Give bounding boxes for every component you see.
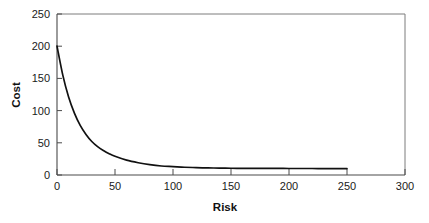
y-tick-label: 150 (32, 72, 50, 84)
x-axis-title: Risk (213, 201, 238, 213)
y-tick-label: 200 (32, 40, 50, 52)
plot-area-background (57, 14, 405, 175)
x-tick-label: 250 (338, 180, 356, 192)
y-tick-label: 250 (32, 8, 50, 20)
x-tick-label: 150 (222, 180, 240, 192)
y-axis-tick-labels: 0 50 100 150 200 250 (32, 8, 50, 181)
x-axis-tick-labels: 0 50 100 150 200 250 300 (54, 180, 414, 192)
chart-container: 0 50 100 150 200 250 0 50 100 150 200 25… (0, 0, 429, 223)
x-tick-label: 200 (280, 180, 298, 192)
x-tick-label: 300 (396, 180, 414, 192)
cost-vs-risk-chart: 0 50 100 150 200 250 0 50 100 150 200 25… (0, 0, 429, 223)
x-tick-label: 100 (164, 180, 182, 192)
x-tick-label: 50 (109, 180, 121, 192)
x-tick-label: 0 (54, 180, 60, 192)
y-tick-label: 0 (44, 169, 50, 181)
y-tick-label: 50 (38, 137, 50, 149)
y-tick-label: 100 (32, 105, 50, 117)
y-axis-title: Cost (10, 82, 22, 108)
